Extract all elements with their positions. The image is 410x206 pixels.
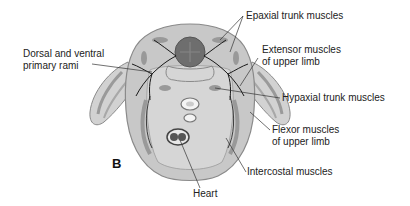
label-extensor-muscles-line2: of upper limb xyxy=(262,56,320,68)
label-dorsal-ventral-rami-line2: primary rami xyxy=(23,60,79,72)
label-flexor-muscles-line1: Flexor muscles xyxy=(272,124,339,136)
label-intercostal-muscles: Intercostal muscles xyxy=(247,166,333,178)
panel-letter: B xyxy=(112,156,121,171)
label-dorsal-ventral-rami-line1: Dorsal and ventral xyxy=(23,48,104,60)
label-heart: Heart xyxy=(193,188,217,200)
embryo-cross-section-figure: Epaxial trunk muscles Extensor muscles o… xyxy=(0,0,410,206)
label-extensor-muscles-line1: Extensor muscles xyxy=(262,44,341,56)
label-hypaxial-trunk-muscles: Hypaxial trunk muscles xyxy=(282,92,385,104)
label-flexor-muscles-line2: of upper limb xyxy=(272,136,330,148)
hypaxial-muscle-left xyxy=(159,85,171,91)
label-epaxial-trunk-muscles: Epaxial trunk muscles xyxy=(246,10,343,22)
